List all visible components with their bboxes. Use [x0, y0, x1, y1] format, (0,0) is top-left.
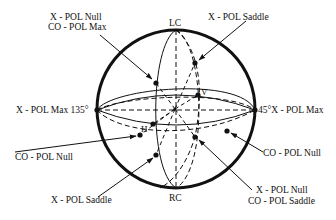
- annotation-copol-null-right: CO - POL Null: [263, 148, 321, 158]
- point-xpol-null-copol-saddle: [192, 134, 197, 139]
- label-lc: LC: [169, 18, 181, 28]
- point-xpol-saddle-bottom: [153, 152, 158, 157]
- point-xpol-null-copol-max: [153, 80, 158, 85]
- meridian-front: [156, 30, 176, 188]
- annotation-xpol-saddle-top: X - POL Saddle: [208, 12, 269, 22]
- point-xpol-saddle-top: [192, 60, 197, 65]
- point-left-mid: [150, 121, 155, 126]
- point-v: [195, 92, 200, 97]
- label-v: V: [201, 87, 208, 97]
- annotation-xpol-null-copol-saddle-2: CO - POL Saddle: [248, 196, 315, 206]
- point-135: [94, 107, 99, 112]
- point-copol-null-right: [224, 128, 229, 133]
- annotation-xpol-null-copol-saddle-1: X - POL Null: [256, 185, 308, 195]
- meridian-tilted: [160, 30, 199, 188]
- annotation-xpol-null-copol-max-1: X - POL Null: [50, 12, 102, 22]
- point-center: [173, 107, 176, 110]
- annotation-xpol-null-copol-max-2: CO - POL Max: [48, 22, 107, 32]
- point-45: [252, 107, 257, 112]
- label-h: H: [141, 124, 148, 134]
- label-rc: RC: [169, 193, 182, 203]
- meridian-back: [176, 30, 199, 188]
- annotation-copol-null-left: CO - POL Null: [15, 152, 73, 162]
- annotation-xpol-max-45: 45°X - POL Max: [258, 105, 324, 115]
- annotation-xpol-saddle-bottom: X - POL Saddle: [51, 195, 112, 205]
- annotation-xpol-max-135: X - POL Max 135°: [16, 105, 89, 115]
- poincare-sphere-diagram: LC RC V H X - POL Null CO - POL Max X - …: [0, 0, 336, 220]
